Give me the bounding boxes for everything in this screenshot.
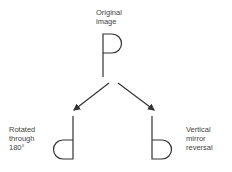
diagram-canvas xyxy=(0,0,232,172)
arrow-left xyxy=(74,83,109,110)
original-p-shape xyxy=(103,34,122,77)
arrow-right xyxy=(118,83,154,110)
mirrored-shape xyxy=(152,116,172,159)
rotated-shape xyxy=(54,116,74,159)
